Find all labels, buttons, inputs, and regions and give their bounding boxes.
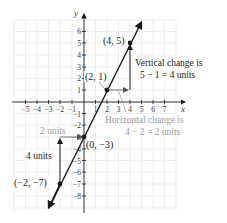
svg-text:6: 6 — [151, 105, 155, 114]
x-axis-label: x — [180, 104, 185, 114]
svg-text:−2: −2 — [56, 105, 64, 114]
svg-text:−2: −2 — [73, 121, 81, 130]
svg-text:−6: −6 — [73, 168, 81, 177]
leader-line-2-1 — [99, 82, 105, 89]
svg-text:5: 5 — [140, 105, 144, 114]
svg-text:−5: −5 — [22, 105, 30, 114]
svg-text:−7: −7 — [73, 180, 81, 189]
svg-text:−1: −1 — [73, 110, 81, 119]
point-4-5 — [128, 41, 133, 46]
point-2-1 — [105, 88, 110, 93]
svg-text:−8: −8 — [73, 192, 81, 201]
svg-text:7: 7 — [163, 105, 167, 114]
svg-text:2: 2 — [105, 105, 109, 114]
vertical-change-text-1: Vertical change is — [135, 58, 203, 68]
graph-canvas: −5 −4 −3 −2 −1 1 2 3 4 5 6 7 x 6 5 4 3 2… — [0, 0, 227, 223]
y-axis-label: y — [73, 8, 78, 18]
svg-text:2: 2 — [77, 74, 81, 83]
point-label-neg2-neg7: (−2, −7) — [14, 177, 47, 189]
svg-text:1: 1 — [77, 86, 81, 95]
point-label-4-5: (4, 5) — [103, 35, 125, 47]
svg-text:3: 3 — [117, 105, 121, 114]
horizontal-change-text-2: 4 − 2 = 2 units — [125, 127, 181, 137]
svg-text:3: 3 — [77, 63, 81, 72]
svg-text:−3: −3 — [45, 105, 53, 114]
y-tick-labels: 6 5 4 3 2 1 −1 −2 −3 −4 −5 −6 −7 −8 — [73, 27, 81, 201]
horizontal-change-text-1: Horizontal change is — [105, 115, 184, 125]
four-units-label: 4 units — [26, 151, 52, 161]
vertical-change-text-2: 5 − 1 = 4 units — [140, 70, 196, 80]
point-label-2-1: (2, 1) — [85, 71, 107, 83]
svg-text:5: 5 — [77, 39, 81, 48]
x-tick-labels: −5 −4 −3 −2 −1 1 2 3 4 5 6 7 — [22, 105, 167, 114]
svg-text:−4: −4 — [33, 105, 41, 114]
svg-text:4: 4 — [128, 105, 132, 114]
point-label-0-neg3: (0, −3) — [86, 139, 113, 151]
point-neg2-neg7 — [58, 182, 63, 187]
two-units-label: 2 units — [40, 126, 66, 136]
svg-text:4: 4 — [77, 51, 81, 60]
svg-text:6: 6 — [77, 27, 81, 36]
